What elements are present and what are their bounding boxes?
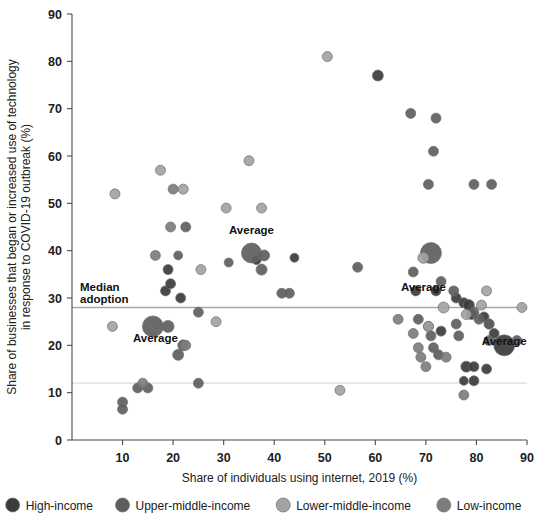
data-point xyxy=(150,250,160,260)
y-axis-tick-label: 0 xyxy=(55,434,62,448)
average-annotation: Average xyxy=(401,281,446,293)
data-point xyxy=(181,222,191,232)
data-point xyxy=(241,243,261,263)
y-axis-title-line-2: in response to COVID-19 outbreak (%) xyxy=(19,124,33,330)
data-point xyxy=(436,326,446,336)
data-point xyxy=(418,252,429,263)
data-point xyxy=(416,352,426,362)
y-axis-tick-label: 20 xyxy=(48,339,62,353)
average-annotation: Average xyxy=(229,224,274,236)
x-axis-title: Share of individuals using internet, 201… xyxy=(182,471,417,485)
data-point xyxy=(487,179,497,189)
data-point xyxy=(469,376,479,386)
y-axis-tick-label: 10 xyxy=(48,386,62,400)
data-point xyxy=(461,310,471,320)
data-point xyxy=(138,378,148,388)
data-point xyxy=(211,317,221,327)
legend-marker-high-income[interactable] xyxy=(6,498,20,512)
legend-marker-low-income[interactable] xyxy=(437,498,451,512)
data-point xyxy=(484,319,494,329)
data-point xyxy=(173,349,184,360)
data-point xyxy=(196,265,206,275)
data-point xyxy=(423,179,433,189)
data-point xyxy=(426,331,436,341)
median-adoption-label: Median xyxy=(80,281,120,293)
data-point xyxy=(168,184,178,194)
data-point xyxy=(335,385,345,395)
data-point xyxy=(469,179,479,189)
x-axis-tick-label: 80 xyxy=(469,451,483,465)
data-point xyxy=(449,286,459,296)
y-axis-title-line-1: Share of businesses that began or increa… xyxy=(5,59,19,395)
data-point xyxy=(482,364,492,374)
data-point xyxy=(406,108,416,118)
legend-marker-upper-middle-income[interactable] xyxy=(116,498,130,512)
data-point xyxy=(438,302,449,313)
data-point xyxy=(413,314,423,324)
x-axis-tick-label: 90 xyxy=(520,451,534,465)
data-point xyxy=(290,253,299,262)
data-point xyxy=(176,293,186,303)
data-point xyxy=(517,302,527,312)
data-point xyxy=(393,314,403,324)
y-axis-tick-label: 50 xyxy=(48,197,62,211)
data-point xyxy=(257,203,267,213)
y-axis-tick-label: 70 xyxy=(48,102,62,116)
data-point xyxy=(482,286,492,296)
data-point xyxy=(193,378,203,388)
data-point xyxy=(163,265,173,275)
data-point xyxy=(469,362,479,372)
data-point xyxy=(174,251,183,260)
y-axis-tick-label: 40 xyxy=(48,244,62,258)
legend-label-low-income[interactable]: Low-income xyxy=(457,499,522,513)
x-axis-tick-label: 30 xyxy=(217,451,231,465)
x-axis-tick-label: 10 xyxy=(116,451,130,465)
y-axis-tick-label: 80 xyxy=(48,55,62,69)
x-axis-tick-label: 50 xyxy=(318,451,332,465)
average-annotation: Average xyxy=(482,335,527,347)
data-point xyxy=(428,146,438,156)
data-point xyxy=(423,321,433,331)
data-point xyxy=(155,165,165,175)
x-axis-tick-label: 20 xyxy=(166,451,180,465)
data-point xyxy=(224,258,233,267)
x-axis-tick-label: 60 xyxy=(368,451,382,465)
data-point xyxy=(107,321,117,331)
data-point xyxy=(441,352,451,362)
data-point xyxy=(431,113,441,123)
scatter-chart-figure: AverageAverageAverageAverageMedianadopti… xyxy=(0,0,542,526)
median-adoption-label: adoption xyxy=(80,293,129,305)
data-point xyxy=(166,279,176,289)
data-point xyxy=(118,404,128,414)
data-point xyxy=(353,262,363,272)
average-annotation: Average xyxy=(133,332,178,344)
data-point xyxy=(259,250,270,261)
data-point xyxy=(459,376,468,385)
chart-background xyxy=(0,0,542,526)
data-point xyxy=(110,189,120,199)
data-point xyxy=(372,70,383,81)
y-axis-tick-label: 30 xyxy=(48,292,62,306)
data-point xyxy=(322,52,332,62)
x-axis-tick-label: 40 xyxy=(267,451,281,465)
legend-label-lower-middle-income[interactable]: Lower-middle-income xyxy=(296,499,411,513)
legend-label-upper-middle-income[interactable]: Upper-middle-income xyxy=(136,499,251,513)
data-point xyxy=(256,264,267,275)
legend-marker-lower-middle-income[interactable] xyxy=(276,498,290,512)
data-point xyxy=(459,390,469,400)
data-point xyxy=(454,331,464,341)
data-point xyxy=(408,329,418,339)
chart-canvas: AverageAverageAverageAverageMedianadopti… xyxy=(0,0,542,526)
data-point xyxy=(474,314,484,324)
x-axis-tick-label: 70 xyxy=(419,451,433,465)
legend-label-high-income[interactable]: High-income xyxy=(26,499,94,513)
y-axis-tick-label: 60 xyxy=(48,150,62,164)
data-point xyxy=(408,267,418,277)
data-point xyxy=(451,319,461,329)
data-point xyxy=(178,184,188,194)
data-point xyxy=(413,343,423,353)
data-point xyxy=(284,288,294,298)
data-point xyxy=(421,362,431,372)
data-point xyxy=(181,340,191,350)
data-point xyxy=(166,222,176,232)
